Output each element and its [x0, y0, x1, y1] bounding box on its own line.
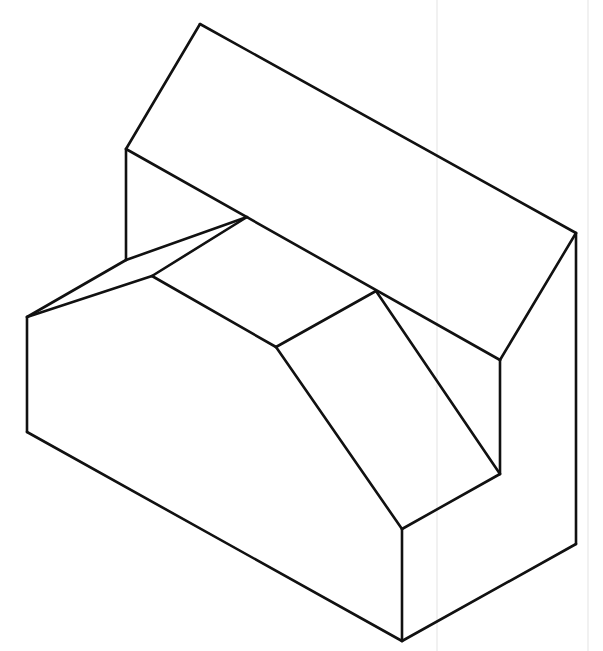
edge-J-M — [276, 347, 402, 529]
solid-edges — [27, 24, 576, 641]
edge-B-D — [126, 149, 500, 360]
isometric-block-drawing — [0, 0, 603, 651]
edge-A-B — [126, 24, 200, 149]
edge-I-N — [27, 432, 402, 641]
edge-K-L — [376, 291, 500, 474]
edge-G-J — [152, 276, 276, 347]
edge-C-D — [500, 233, 576, 360]
edge-J-K — [276, 291, 376, 347]
edge-L-M — [402, 474, 500, 529]
edge-N-O — [402, 544, 576, 641]
edge-A-C — [200, 24, 576, 233]
scan-artifact-lines — [437, 0, 588, 651]
